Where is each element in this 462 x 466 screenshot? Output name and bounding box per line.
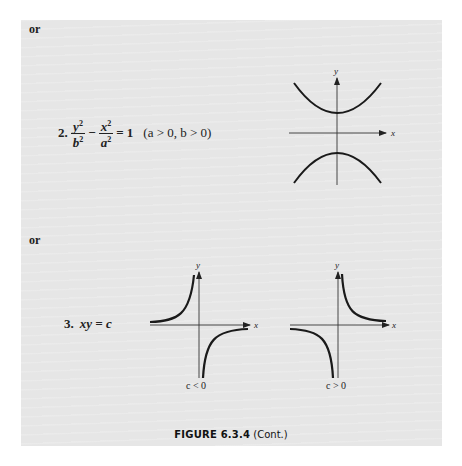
caption-suffix: (Cont.) [253,429,287,440]
figure-caption: FIGURE 6.3.4 (Cont.) [0,429,462,440]
x-axis-label: x [390,128,395,138]
xy-neg-graph: x y [150,260,258,378]
branch-quadrant-ii [150,275,194,322]
graphs-canvas: x y x y x y [0,0,462,466]
y-axis-label: y [195,260,200,270]
figure-number: FIGURE 6.3.4 [174,429,250,440]
branch-quadrant-i [342,274,386,321]
branch-quadrant-iv [203,329,248,378]
x-axis-label: x [253,320,258,330]
y-axis-label: y [333,66,338,76]
x-axis-label: x [391,320,396,330]
y-axis-label: y [334,260,339,270]
upper-branch [294,83,381,113]
condition-c-negative: c < 0 [186,380,206,391]
hyperbola-graph: x y [289,66,395,185]
condition-c-positive: c > 0 [326,380,346,391]
branch-quadrant-iii [290,329,333,378]
lower-branch [294,153,381,183]
xy-pos-graph: x y [290,260,396,378]
